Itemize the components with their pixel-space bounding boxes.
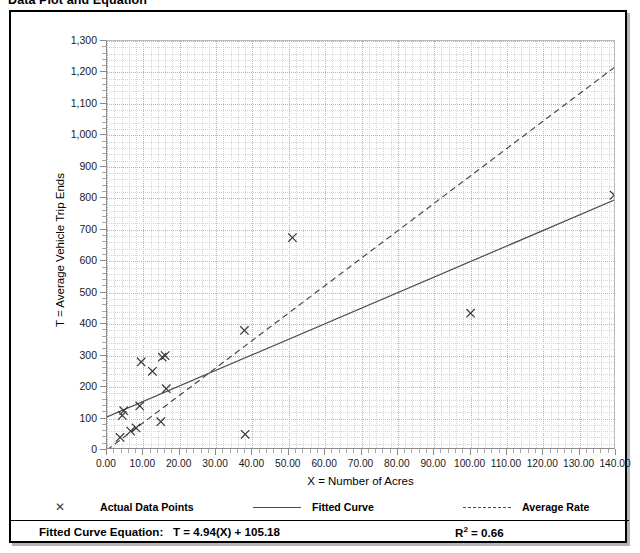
x-axis-tick-label: 40.00 bbox=[239, 458, 265, 469]
x-axis-tick bbox=[462, 449, 463, 453]
equation-row: Fitted Curve Equation: T = 4.94(X) + 105… bbox=[11, 521, 629, 543]
data-point-marker bbox=[241, 430, 249, 438]
y-axis-tick-label: 1,200 bbox=[41, 65, 97, 77]
y-axis-tick-label: 0 bbox=[41, 443, 97, 455]
x-axis-tick bbox=[331, 449, 332, 453]
x-axis-tick bbox=[535, 449, 536, 453]
x-axis-tick bbox=[339, 449, 340, 453]
x-axis-tick bbox=[448, 449, 449, 453]
solid-line-icon bbox=[251, 501, 303, 513]
x-axis-tick bbox=[113, 449, 114, 453]
legend-item-average-rate: Average Rate bbox=[461, 495, 589, 519]
chart-area: T = Average Vehicle Trip Ends X = Number… bbox=[11, 12, 629, 492]
x-axis-tick bbox=[164, 449, 165, 453]
y-axis-tick-label: 300 bbox=[41, 349, 97, 361]
x-axis-tick bbox=[477, 449, 478, 453]
x-axis-tick bbox=[244, 449, 245, 453]
x-marker-icon: ✕ bbox=[39, 501, 91, 513]
data-series-layer bbox=[107, 41, 615, 449]
x-axis-tick bbox=[208, 449, 209, 453]
x-axis-tick bbox=[593, 449, 594, 453]
x-axis-tick bbox=[142, 449, 143, 455]
x-axis-tick-label: 0.00 bbox=[96, 458, 116, 469]
x-axis-tick bbox=[615, 449, 616, 455]
x-axis-tick bbox=[579, 449, 580, 455]
x-axis-tick bbox=[230, 449, 231, 453]
legend-label-actual-data-points: Actual Data Points bbox=[100, 501, 194, 513]
x-axis-tick bbox=[440, 449, 441, 453]
x-axis-tick bbox=[455, 449, 456, 453]
x-axis-tick bbox=[506, 449, 507, 455]
x-axis-tick bbox=[215, 449, 216, 455]
x-axis-tick bbox=[470, 449, 471, 455]
equation-value: T = 4.94(X) + 105.18 bbox=[173, 525, 280, 538]
x-axis-tick-label: 60.00 bbox=[311, 458, 337, 469]
x-axis-tick bbox=[361, 449, 362, 455]
x-axis-tick bbox=[259, 449, 260, 453]
y-axis-tick-label: 900 bbox=[41, 160, 97, 172]
x-axis-tick bbox=[411, 449, 412, 453]
x-axis-tick bbox=[128, 449, 129, 453]
x-axis-tick bbox=[302, 449, 303, 453]
y-axis-tick-label: 600 bbox=[41, 254, 97, 266]
data-point-marker bbox=[158, 353, 166, 361]
x-axis-tick bbox=[542, 449, 543, 455]
x-axis-tick bbox=[600, 449, 601, 453]
data-points bbox=[116, 191, 615, 442]
x-axis-tick bbox=[106, 449, 107, 455]
y-axis-tick-label: 1,300 bbox=[41, 34, 97, 46]
x-axis-tick-label: 80.00 bbox=[384, 458, 410, 469]
r-squared-value: R2 = 0.66 bbox=[455, 525, 504, 539]
x-axis-tick bbox=[171, 449, 172, 453]
x-axis-tick-label: 100.00 bbox=[454, 458, 485, 469]
y-axis-tick-label: 700 bbox=[41, 223, 97, 235]
x-axis-tick-label: 130.00 bbox=[563, 458, 594, 469]
x-axis-tick bbox=[520, 449, 521, 453]
x-axis-tick bbox=[135, 449, 136, 453]
x-axis-tick bbox=[273, 449, 274, 453]
data-point-marker bbox=[610, 191, 615, 199]
x-axis-tick bbox=[528, 449, 529, 453]
x-axis-tick bbox=[375, 449, 376, 453]
x-axis-tick bbox=[353, 449, 354, 453]
x-axis-tick bbox=[368, 449, 369, 453]
x-axis-tick bbox=[513, 449, 514, 453]
x-axis-tick bbox=[346, 449, 347, 453]
legend-item-fitted-curve: Fitted Curve bbox=[251, 495, 374, 519]
x-axis-tick bbox=[608, 449, 609, 453]
x-axis-tick-label: 140.00 bbox=[599, 458, 630, 469]
data-point-marker bbox=[137, 358, 145, 366]
equation-label: Fitted Curve Equation: bbox=[39, 525, 163, 538]
x-axis-tick-label: 10.00 bbox=[130, 458, 156, 469]
x-axis-tick-label: 70.00 bbox=[348, 458, 374, 469]
x-axis-tick bbox=[419, 449, 420, 453]
x-axis-tick bbox=[426, 449, 427, 453]
data-point-marker bbox=[157, 417, 165, 425]
plot-area bbox=[106, 40, 615, 449]
legend-item-actual-data-points: ✕ Actual Data Points bbox=[39, 495, 194, 519]
x-axis-tick bbox=[281, 449, 282, 453]
x-axis-tick bbox=[499, 449, 500, 453]
x-axis-tick-label: 50.00 bbox=[275, 458, 301, 469]
x-axis-tick bbox=[390, 449, 391, 453]
x-axis-tick bbox=[571, 449, 572, 453]
data-point-marker bbox=[148, 367, 156, 375]
dashed-line-icon bbox=[461, 501, 513, 513]
x-axis-tick bbox=[310, 449, 311, 453]
x-axis-tick bbox=[295, 449, 296, 453]
x-axis-tick bbox=[397, 449, 398, 455]
data-point-marker bbox=[161, 351, 169, 359]
y-axis-tick-label: 1,000 bbox=[41, 128, 97, 140]
data-point-marker bbox=[288, 233, 296, 241]
x-axis-tick bbox=[324, 449, 325, 455]
x-axis-tick-label: 20.00 bbox=[166, 458, 192, 469]
x-axis-tick bbox=[484, 449, 485, 453]
x-axis-tick bbox=[251, 449, 252, 455]
x-axis-tick bbox=[564, 449, 565, 453]
x-axis-tick bbox=[193, 449, 194, 453]
x-axis-tick-label: 30.00 bbox=[202, 458, 228, 469]
fitted-curve-line bbox=[107, 199, 615, 417]
x-axis-tick bbox=[550, 449, 551, 453]
x-axis-tick-label: 90.00 bbox=[420, 458, 446, 469]
x-axis-tick bbox=[433, 449, 434, 455]
